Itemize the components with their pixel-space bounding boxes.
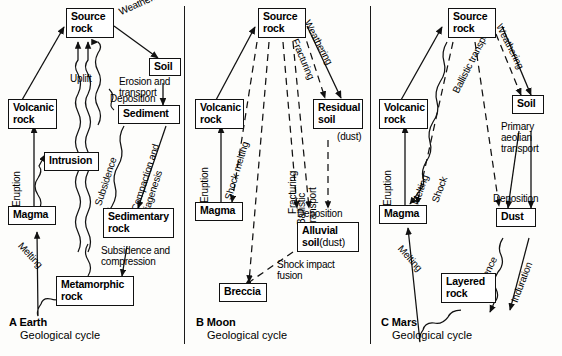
label-subsidence-and-compression: Subsidence and compression [101, 245, 170, 267]
caption-title: A Earth [9, 316, 47, 328]
node-label: Sedimentary [108, 210, 169, 222]
node-magma[interactable]: Magma [379, 205, 427, 224]
node-source-rock[interactable]: Source rock [66, 8, 114, 38]
node-label: soil [302, 236, 319, 248]
node-label: Intrusion [49, 154, 92, 166]
node-volcanic-rock[interactable]: Volcanic rock [379, 99, 428, 129]
label-line: fusion [277, 270, 303, 281]
node-label: Breccia [224, 285, 261, 297]
node-label: Sediment [123, 107, 169, 119]
caption-subtitle: Geological cycle [9, 329, 100, 342]
panel-earth: Source rock Soil Volcanic rock Sediment … [0, 0, 187, 356]
node-label: rock [446, 287, 467, 299]
geological-cycles-figure: Source rock Soil Volcanic rock Sediment … [0, 0, 562, 356]
caption-moon: B Moon Geological cycle [196, 316, 287, 342]
node-label: Volcanic [200, 101, 241, 113]
node-dust[interactable]: Dust [496, 208, 536, 227]
node-label: Magma [13, 208, 48, 220]
node-label: rock [384, 113, 405, 125]
node-label: Volcanic [384, 101, 425, 113]
panel-mars: Source rock Volcanic rock Soil Magma Dus… [371, 0, 558, 356]
node-label: rock [108, 222, 129, 234]
label-line: compression [101, 256, 156, 267]
label-line: Primary [501, 121, 534, 132]
node-label: rock [13, 113, 34, 125]
node-label: Volcanic [13, 101, 54, 113]
node-soil[interactable]: Soil [512, 95, 544, 114]
label-eruption: Eruption [199, 167, 210, 203]
label-shock-impact-fusion: Shock impact fusion [277, 259, 335, 281]
node-layered-rock[interactable]: Layered rock [441, 273, 496, 303]
node-source-rock[interactable]: Source rock [448, 8, 496, 38]
caption-title: C Mars [381, 316, 417, 328]
label-line: Subsidence and [101, 245, 170, 256]
node-sedimentary-rock[interactable]: Sedimentary rock [103, 208, 174, 238]
node-intrusion[interactable]: Intrusion [44, 152, 99, 171]
label-line: transport [307, 187, 318, 225]
label-ballistic-transport: Ballistic transport [296, 187, 318, 225]
panel-moon: Source rock Volcanic rock Residual soil … [185, 0, 372, 356]
node-label: rock [61, 290, 82, 302]
label-line: Erosion and [119, 76, 170, 87]
node-label: rock [71, 22, 92, 34]
label-deposition: Deposition [110, 93, 155, 104]
node-magma[interactable]: Magma [8, 206, 56, 225]
node-volcanic-rock[interactable]: Volcanic rock [195, 99, 244, 129]
node-metamorphic-rock[interactable]: Metamorphic rock [56, 276, 134, 306]
label-dust: (dust) [337, 131, 361, 142]
label-uplift: Uplift [70, 73, 92, 84]
panel-moon-arrows [185, 0, 372, 356]
node-alluvial-soil[interactable]: Alluvial soil(dust) [297, 222, 359, 252]
label-primary-aeolian-transport: Primary aeolian transport [501, 121, 539, 154]
node-label: rock [263, 22, 284, 34]
node-magma[interactable]: Magma [195, 202, 243, 221]
node-label: Residual [318, 101, 360, 113]
label-deposition: Deposition [493, 193, 538, 204]
node-volcanic-rock[interactable]: Volcanic rock [8, 99, 57, 129]
node-soil[interactable]: Soil [149, 58, 181, 76]
label-deposition: Deposition [297, 208, 342, 219]
node-label: rock [200, 113, 221, 125]
node-label: Source [453, 10, 487, 22]
node-label: rock [453, 22, 474, 34]
caption-earth: A Earth Geological cycle [9, 316, 100, 342]
node-label: Layered [446, 275, 485, 287]
node-label: Dust [501, 210, 524, 222]
label-eruption: Eruption [382, 170, 393, 206]
node-source-rock[interactable]: Source rock [258, 8, 306, 38]
node-label: Soil [154, 60, 172, 72]
caption-subtitle: Geological cycle [196, 329, 287, 342]
node-label: Metamorphic [61, 278, 124, 290]
label-line: transport [501, 143, 539, 154]
node-label: Magma [200, 204, 235, 216]
label-eruption: Eruption [11, 171, 22, 207]
caption-subtitle: Geological cycle [381, 329, 472, 342]
node-label: Source [71, 10, 105, 22]
caption-title: B Moon [196, 316, 236, 328]
node-label: Alluvial [302, 224, 338, 236]
node-label: Magma [384, 207, 419, 219]
node-breccia[interactable]: Breccia [219, 283, 267, 302]
node-label-sub: (dust) [319, 236, 345, 248]
label-line: aeolian [501, 132, 532, 143]
label-line: Shock impact [277, 259, 335, 270]
caption-mars: C Mars Geological cycle [381, 316, 472, 342]
node-label: Soil [517, 97, 535, 109]
node-residual-soil[interactable]: Residual soil [313, 99, 363, 129]
node-sediment[interactable]: Sediment [118, 105, 180, 124]
node-label: soil [318, 113, 335, 125]
node-label: Source [263, 10, 297, 22]
